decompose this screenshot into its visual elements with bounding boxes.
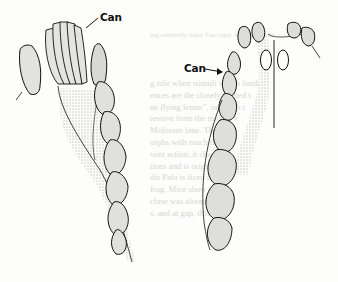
incisive-foramen-left bbox=[261, 50, 272, 70]
upper-incisors bbox=[238, 22, 315, 48]
book-page-scan: ing relatively hairy Fau ragal. Moderate… bbox=[0, 0, 338, 282]
upper-jaw-drawing bbox=[203, 22, 320, 250]
lower-jaw-drawing bbox=[16, 18, 136, 262]
incisive-foramen-right bbox=[278, 50, 289, 70]
lower-canine bbox=[91, 44, 107, 86]
upper-canine bbox=[222, 71, 236, 96]
canine-label-lower: Can bbox=[100, 11, 122, 23]
upper-cheek-teeth bbox=[206, 52, 241, 250]
lower-left-tooth bbox=[19, 45, 40, 94]
canine-label-upper: Can bbox=[184, 62, 206, 74]
dentition-illustration bbox=[0, 0, 338, 282]
lower-incisors bbox=[46, 22, 88, 84]
